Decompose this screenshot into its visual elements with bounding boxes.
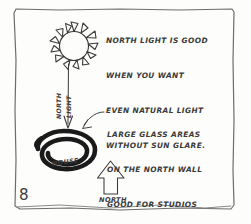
ray-label-north: NORTH bbox=[55, 93, 62, 119]
note-line: NORTH LIGHT IS GOOD bbox=[106, 35, 208, 47]
ray-label-light: LIGHT bbox=[65, 95, 72, 118]
sun-icon bbox=[50, 22, 98, 70]
note-glass-areas: LARGE GLASS AREAS ON THE NORTH WALL GOOD… bbox=[107, 106, 202, 224]
curved-leader-arrow-icon bbox=[83, 112, 105, 129]
page-number: 8 bbox=[19, 186, 29, 204]
sketch-sheet: NORTH LIGHT IS GOOD WHEN YOU WANT EVEN N… bbox=[0, 0, 251, 224]
note-line: ON THE NORTH WALL bbox=[107, 164, 202, 176]
note-line: LARGE GLASS AREAS bbox=[107, 129, 202, 141]
house-label: HOUSE bbox=[52, 156, 80, 167]
note-line: WHEN YOU WANT bbox=[106, 70, 208, 82]
compass-label: NORTH bbox=[99, 196, 127, 204]
